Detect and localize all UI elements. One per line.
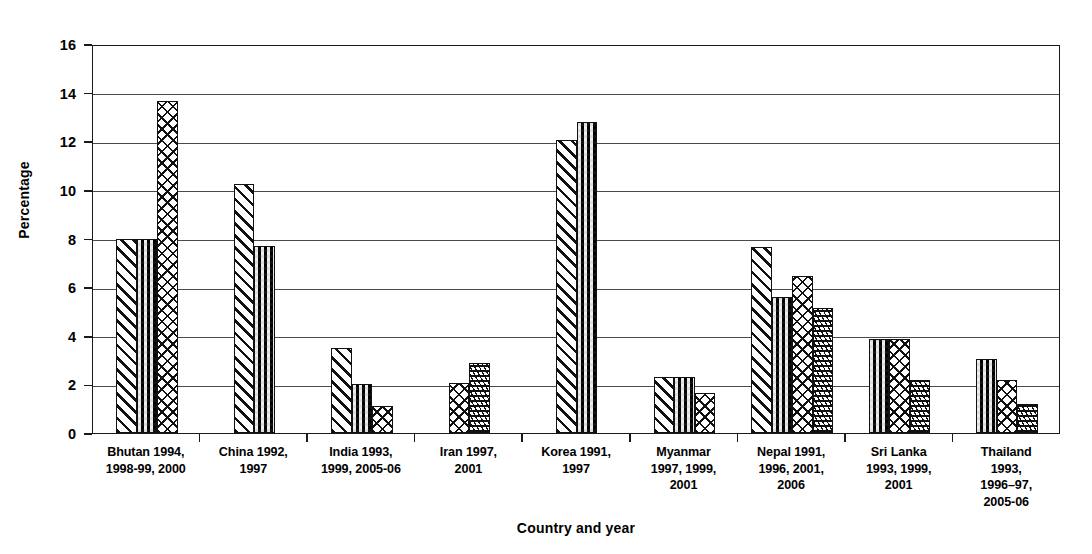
x-category-label: Myanmar1997, 1999,2001: [624, 444, 744, 494]
y-tick-mark: [84, 239, 92, 241]
bar: [254, 246, 275, 433]
x-tick-mark: [199, 434, 201, 442]
bar-group: [846, 46, 954, 433]
bar: [577, 122, 598, 433]
x-category-label-line: 2001: [839, 477, 959, 494]
x-category-label-line: India 1993,: [301, 444, 421, 461]
bar: [116, 239, 137, 434]
x-category-label-line: China 1992,: [194, 444, 314, 461]
bar-group: [308, 46, 416, 433]
y-tick-mark: [84, 385, 92, 387]
x-tick-mark: [952, 434, 954, 442]
bar: [352, 384, 373, 433]
y-tick-label: 0: [36, 427, 76, 442]
x-category-label-line: Korea 1991,: [516, 444, 636, 461]
bar-group-bars: [93, 46, 201, 433]
bar: [469, 363, 490, 434]
x-tick-mark: [844, 434, 846, 442]
bar: [889, 339, 910, 433]
x-category-label-line: Bhutan 1994,: [86, 444, 206, 461]
bar: [331, 348, 352, 433]
x-tick-mark: [521, 434, 523, 442]
bar: [869, 339, 890, 433]
bar-chart: Percentage Country and year 024681012141…: [0, 0, 1092, 554]
x-category-label-line: Thailand: [946, 444, 1066, 461]
bar-group-bars: [416, 46, 524, 433]
x-category-label: China 1992,1997: [194, 444, 314, 477]
bar-group-bars: [523, 46, 631, 433]
bar-group-bars: [308, 46, 416, 433]
y-tick-label: 2: [36, 378, 76, 393]
bar: [654, 377, 675, 433]
bar: [137, 239, 158, 434]
x-category-label-line: 2006: [731, 477, 851, 494]
y-tick-label: 12: [36, 135, 76, 150]
bar: [234, 184, 255, 433]
bar: [695, 393, 716, 433]
y-axis-title: Percentage: [16, 130, 32, 270]
x-category-label-line: 1997: [194, 461, 314, 478]
y-tick-mark: [84, 336, 92, 338]
x-category-label-line: Sri Lanka: [839, 444, 959, 461]
bar-group: [523, 46, 631, 433]
x-category-label-line: 1996–97,: [946, 477, 1066, 494]
x-tick-mark: [737, 434, 739, 442]
bar: [372, 406, 393, 433]
x-category-label: Iran 1997,2001: [409, 444, 529, 477]
bar: [813, 308, 834, 433]
x-tick-mark: [306, 434, 308, 442]
y-tick-mark: [84, 433, 92, 435]
bar-group: [953, 46, 1061, 433]
x-category-label: Bhutan 1994,1998-99, 2000: [86, 444, 206, 477]
y-tick-label: 6: [36, 281, 76, 296]
bar-group: [201, 46, 309, 433]
x-category-label-line: Nepal 1991,: [731, 444, 851, 461]
y-tick-mark: [84, 287, 92, 289]
y-tick-mark: [84, 141, 92, 143]
bar: [792, 276, 813, 433]
x-axis-title: Country and year: [92, 520, 1060, 536]
x-tick-mark: [414, 434, 416, 442]
bar-group: [416, 46, 524, 433]
x-category-label-line: 2001: [409, 461, 529, 478]
x-category-label-line: Iran 1997,: [409, 444, 529, 461]
y-tick-label: 8: [36, 233, 76, 248]
x-category-label-line: 2001: [624, 477, 744, 494]
bar-group-bars: [846, 46, 954, 433]
bar-group-bars: [953, 46, 1061, 433]
x-category-label: Sri Lanka1993, 1999,2001: [839, 444, 959, 494]
bar: [157, 101, 178, 433]
bar: [1017, 404, 1038, 433]
x-category-label-line: 1999, 2005-06: [301, 461, 421, 478]
bar-group: [631, 46, 739, 433]
x-category-label-line: 1997, 1999,: [624, 461, 744, 478]
x-category-label-line: 1993,: [946, 461, 1066, 478]
bar: [556, 140, 577, 433]
x-category-label: Korea 1991,1997: [516, 444, 636, 477]
x-category-label-line: 1998-99, 2000: [86, 461, 206, 478]
y-tick-label: 10: [36, 184, 76, 199]
x-category-label-line: 2005-06: [946, 494, 1066, 511]
bar-group: [93, 46, 201, 433]
y-tick-mark: [84, 44, 92, 46]
x-category-label-line: Myanmar: [624, 444, 744, 461]
y-tick-mark: [84, 190, 92, 192]
bar-group-bars: [201, 46, 309, 433]
x-category-label: Thailand1993,1996–97,2005-06: [946, 444, 1066, 510]
x-category-label-line: 1993, 1999,: [839, 461, 959, 478]
bar-group: [738, 46, 846, 433]
bar: [910, 380, 931, 433]
x-category-label-line: 1997: [516, 461, 636, 478]
x-category-label: India 1993,1999, 2005-06: [301, 444, 421, 477]
y-tick-label: 4: [36, 330, 76, 345]
bar: [674, 377, 695, 433]
bar: [997, 380, 1018, 433]
bar-group-bars: [631, 46, 739, 433]
x-category-label-line: 1996, 2001,: [731, 461, 851, 478]
x-category-label: Nepal 1991,1996, 2001,2006: [731, 444, 851, 494]
bar: [772, 297, 793, 433]
y-tick-label: 16: [36, 38, 76, 53]
bar: [976, 359, 997, 433]
bar: [449, 383, 470, 433]
plot-area: [92, 45, 1060, 434]
